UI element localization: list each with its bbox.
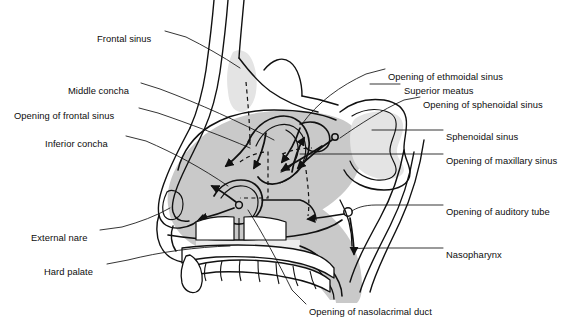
label-inferior-concha: Inferior concha — [45, 138, 108, 149]
label-opening-of-ethmoidal-sinus: Opening of ethmoidal sinus — [388, 71, 503, 82]
label-hard-palate: Hard palate — [44, 266, 93, 277]
forehead-contour — [190, 0, 214, 128]
label-sphenoidal-sinus: Sphenoidal sinus — [446, 131, 518, 142]
label-opening-of-nasolacrimal-duct: Opening of nasolacrimal duct — [309, 306, 432, 317]
leader-external-nare — [100, 208, 170, 230]
label-opening-of-auditory-tube: Opening of auditory tube — [446, 206, 550, 217]
palatine-recess-right — [244, 217, 286, 240]
label-opening-of-maxillary-sinus: Opening of maxillary sinus — [446, 155, 557, 166]
palatine-recess-left — [196, 217, 234, 240]
label-nasopharynx: Nasopharynx — [446, 249, 502, 260]
forehead-skin-line — [204, 0, 228, 130]
leader-nasopharynx — [352, 248, 443, 249]
label-opening-of-sphenoidal-sinus: Opening of sphenoidal sinus — [423, 99, 543, 110]
leader-frontal-sinus — [165, 31, 240, 68]
frontal-sinus-shading — [227, 50, 257, 112]
label-external-nare: External nare — [31, 232, 87, 243]
frontal-bone-inner-line — [239, 0, 244, 58]
label-frontal-sinus: Frontal sinus — [97, 33, 151, 44]
figure-canvas: Frontal sinus Middle concha Opening of f… — [0, 0, 585, 332]
nasal-cavity-diagram — [0, 0, 585, 332]
upper-lip-inner — [171, 226, 176, 251]
incisor-tooth — [181, 255, 202, 293]
label-opening-of-frontal-sinus: Opening of frontal sinus — [14, 110, 114, 121]
label-middle-concha: Middle concha — [68, 85, 129, 96]
label-superior-meatus: Superior meatus — [404, 85, 474, 96]
